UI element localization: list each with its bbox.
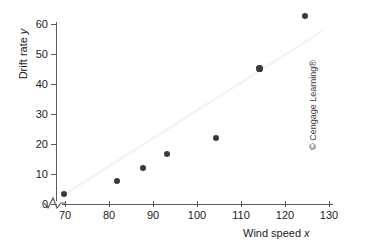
x-axis-variable: x xyxy=(301,227,310,239)
y-tick-label-10: 10 xyxy=(22,168,48,180)
y-tick-20 xyxy=(51,144,57,145)
y-tick-label-20: 20 xyxy=(22,138,48,150)
x-tick-110 xyxy=(241,201,242,207)
data-point xyxy=(256,65,262,71)
y-tick-10 xyxy=(51,174,57,175)
y-tick-50 xyxy=(51,54,57,55)
x-tick-90 xyxy=(153,201,154,207)
y-axis-variable: y xyxy=(17,29,29,38)
y-tick-40 xyxy=(51,84,57,85)
x-tick-70 xyxy=(65,201,66,207)
x-tick-label-80: 80 xyxy=(94,209,124,221)
x-tick-label-110: 110 xyxy=(226,209,256,221)
x-tick-label-120: 120 xyxy=(270,209,300,221)
data-point xyxy=(164,151,170,157)
plot-area: 0 10 20 30 40 50 60 70 80 90 100 110 120… xyxy=(0,0,371,251)
scatter-plot-figure: 0 10 20 30 40 50 60 70 80 90 100 110 120… xyxy=(0,0,371,251)
x-tick-label-70: 70 xyxy=(50,209,80,221)
x-tick-80 xyxy=(109,201,110,207)
x-tick-label-90: 90 xyxy=(138,209,168,221)
y-tick-30 xyxy=(51,114,57,115)
data-point xyxy=(114,178,120,184)
y-axis-title: Drift ratey xyxy=(17,9,29,99)
data-point xyxy=(213,135,219,141)
x-tick-label-100: 100 xyxy=(182,209,212,221)
y-tick-0 xyxy=(51,204,57,205)
y-tick-label-30: 30 xyxy=(22,108,48,120)
y-tick-label-0: 0 xyxy=(22,198,48,210)
copyright-credit: © Cengage Learning® xyxy=(308,40,318,150)
x-axis-title: Wind speedx xyxy=(243,227,310,239)
x-axis-title-text: Wind speed xyxy=(243,227,301,239)
x-tick-130 xyxy=(329,201,330,207)
y-tick-60 xyxy=(51,24,57,25)
data-point xyxy=(61,191,67,197)
x-tick-120 xyxy=(285,201,286,207)
x-tick-label-130: 130 xyxy=(314,209,344,221)
x-tick-100 xyxy=(197,201,198,207)
data-point xyxy=(302,13,308,19)
data-point xyxy=(140,165,146,171)
y-axis-title-text: Drift rate xyxy=(17,37,29,79)
